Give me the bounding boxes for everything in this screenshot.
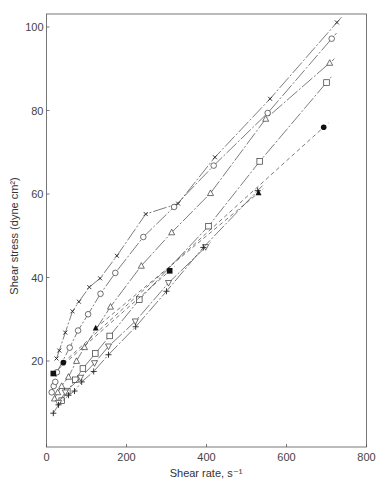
data-point-o-filled	[321, 124, 327, 130]
fit-line	[52, 33, 337, 392]
data-point-+	[50, 410, 56, 416]
y-tick-label: 60	[31, 188, 43, 200]
data-point-o	[85, 311, 91, 317]
series-open-circle	[49, 33, 337, 395]
data-point-x	[77, 300, 81, 304]
x-axis-title: Shear rate, s⁻¹	[170, 467, 243, 479]
data-point-s	[80, 366, 86, 372]
data-point-v	[166, 281, 172, 287]
data-point-^	[263, 116, 269, 122]
data-point-o	[75, 328, 81, 334]
fit-line	[96, 189, 264, 328]
y-tick-label: 80	[31, 105, 43, 117]
data-point-s	[93, 351, 99, 357]
data-point-x	[144, 212, 148, 216]
data-point-s	[107, 333, 113, 339]
y-tick-label: 40	[31, 272, 43, 284]
series-open-inverted-triangle	[56, 242, 211, 406]
series-open-square	[59, 77, 331, 404]
x-tick-label: 400	[197, 451, 215, 463]
data-point-x	[71, 309, 75, 313]
data-point-x	[63, 331, 67, 335]
data-point-^	[327, 60, 333, 66]
fit-line	[53, 186, 262, 414]
data-point-o	[141, 234, 147, 240]
fit-line	[57, 17, 342, 359]
series-filled-square	[51, 267, 175, 377]
data-point-o	[53, 379, 59, 385]
x-tick-label: 600	[277, 451, 295, 463]
series-open-triangle	[52, 59, 335, 401]
data-point-^	[55, 389, 61, 395]
y-axis-title: Shear stress (dyne cm²)	[8, 177, 20, 294]
data-point-o	[171, 204, 177, 210]
data-point-x	[98, 276, 102, 280]
shear-chart: 020040060080020406080100 Shear rate, s⁻¹…	[0, 0, 383, 485]
data-point-s	[206, 223, 212, 229]
data-point-o	[98, 291, 104, 297]
data-point-x	[176, 202, 180, 206]
y-tick-label: 100	[25, 21, 43, 33]
x-tick-label: 200	[117, 451, 135, 463]
data-point-x	[87, 285, 91, 289]
data-point-s-filled	[167, 268, 173, 274]
y-tick-label: 20	[31, 355, 43, 367]
data-series	[49, 17, 342, 416]
fit-line	[62, 77, 332, 401]
data-point-s-filled	[51, 371, 57, 377]
axis-ticks: 020040060080020406080100	[25, 21, 376, 463]
data-point-^-filled	[93, 325, 99, 331]
data-point-x	[57, 349, 61, 353]
x-tick-label: 0	[43, 451, 49, 463]
data-point-x	[268, 97, 272, 101]
data-point-x	[55, 356, 59, 360]
data-point-o	[211, 163, 217, 169]
data-point-o	[49, 390, 55, 396]
data-point-x	[115, 254, 119, 258]
plot-border	[47, 14, 367, 447]
data-point-x	[213, 155, 217, 159]
fit-line	[55, 59, 335, 399]
data-point-s	[257, 159, 263, 165]
fit-line	[53, 267, 174, 374]
series-filled-triangle	[93, 189, 264, 331]
data-point-o	[329, 36, 335, 42]
data-point-^	[74, 358, 80, 364]
series-plus	[50, 186, 262, 417]
data-point-+	[72, 388, 78, 394]
data-point-o	[67, 345, 73, 351]
data-point-s	[73, 377, 79, 383]
series-x-marker	[55, 17, 342, 361]
data-point-x	[335, 20, 339, 24]
x-tick-label: 800	[357, 451, 375, 463]
data-point-o-filled	[61, 360, 67, 366]
data-point-o	[113, 270, 119, 276]
data-point-^	[66, 374, 72, 380]
plot-frame	[47, 14, 367, 447]
data-point-^	[82, 344, 88, 350]
data-point-s	[324, 80, 330, 86]
fit-line	[63, 123, 328, 363]
series-filled-circle	[61, 123, 329, 366]
